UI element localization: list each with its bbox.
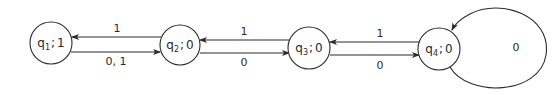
edge-label: 1	[377, 27, 384, 40]
state-diagram: 1 0, 1 1 0 1 0 0 q1;1 q2;0 q3;0 q4	[0, 0, 553, 95]
edge-q1-q2: 0, 1	[71, 52, 160, 68]
state-q2: q2;0	[160, 25, 200, 65]
edge-label: 0	[377, 59, 384, 72]
edge-label: 0	[241, 56, 248, 69]
state-label: q4;0	[425, 42, 452, 58]
edge-label: 1	[114, 22, 121, 35]
edge-q2-q3: 0	[200, 53, 289, 69]
edge-q2-q1: 1	[72, 22, 161, 37]
edge-label: 0, 1	[106, 55, 127, 68]
edge-label: 0	[513, 41, 520, 54]
edge-q3-q4: 0	[330, 55, 419, 72]
state-q3: q3;0	[288, 27, 330, 69]
edge-q3-q2: 1	[200, 25, 289, 40]
state-label: q3;0	[295, 41, 322, 57]
state-q1: q1;1	[30, 22, 72, 64]
edge-q4-self-loop: 0	[450, 8, 546, 88]
edge-q4-q3: 1	[330, 27, 419, 42]
state-label: q1;1	[37, 36, 64, 52]
state-label: q2;0	[166, 38, 193, 54]
state-q4: q4;0	[418, 28, 460, 70]
edge-label: 1	[241, 25, 248, 38]
